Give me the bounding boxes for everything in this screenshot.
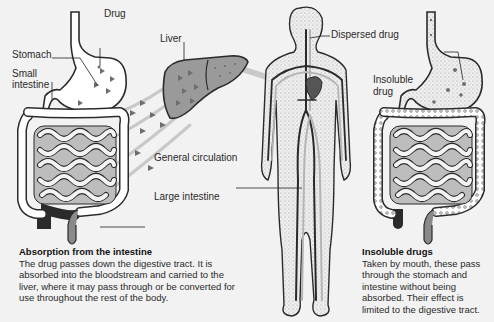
caption-insoluble-title: Insoluble drugs xyxy=(362,246,488,258)
label-insoluble-drug-line2: drug xyxy=(373,86,393,97)
human-body xyxy=(262,7,351,316)
label-large-intestine: Large intestine xyxy=(154,191,220,202)
caption-insoluble-body: Taken by mouth, these pass through the s… xyxy=(362,258,488,316)
caption-absorption: Absorption from the intestine The drug p… xyxy=(19,246,239,304)
label-insoluble-drug-line1: Insoluble xyxy=(373,74,413,85)
label-small-intestine-line2: intestine xyxy=(12,79,49,90)
right-stomach xyxy=(399,12,482,112)
label-liver: Liver xyxy=(160,33,182,44)
left-stomach xyxy=(43,12,126,112)
caption-absorption-body: The drug passes down the digestive tract… xyxy=(19,258,239,304)
label-dispersed-drug: Dispersed drug xyxy=(331,29,399,40)
label-general-circulation: General circulation xyxy=(154,152,237,163)
left-intestines xyxy=(22,112,125,244)
label-drug: Drug xyxy=(104,8,126,19)
right-intestines xyxy=(378,112,481,244)
label-stomach: Stomach xyxy=(12,49,51,60)
liver xyxy=(163,56,248,118)
caption-insoluble: Insoluble drugs Taken by mouth, these pa… xyxy=(362,246,488,315)
caption-absorption-title: Absorption from the intestine xyxy=(19,246,239,258)
label-small-intestine-line1: Small xyxy=(12,68,37,79)
